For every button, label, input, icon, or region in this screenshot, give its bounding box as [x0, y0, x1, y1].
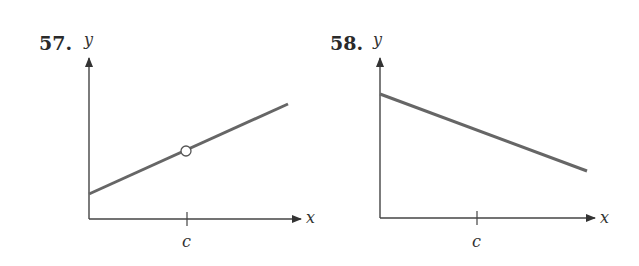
tick-label-c: c: [182, 232, 191, 251]
figure-number: 57.: [39, 32, 72, 54]
x-axis-label: x: [306, 208, 315, 227]
tick-label-c: c: [472, 232, 481, 251]
figure-number: 58.: [330, 32, 363, 54]
y-axis-label: y: [84, 30, 93, 49]
open-circle-hole: [181, 146, 191, 156]
function-line: [380, 94, 587, 171]
x-axis-label: x: [600, 208, 609, 227]
figure-58: [380, 58, 595, 225]
figure-57: [89, 58, 301, 226]
y-axis-label: y: [373, 30, 382, 49]
figures-canvas: [0, 0, 639, 266]
